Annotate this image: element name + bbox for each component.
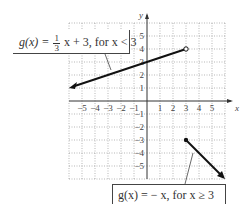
svg-text:3: 3 <box>140 57 145 67</box>
svg-text:2: 2 <box>140 70 145 80</box>
fraction-denominator: 3 <box>53 44 60 53</box>
svg-text:2: 2 <box>171 103 176 113</box>
svg-text:−5: −5 <box>134 161 144 171</box>
svg-text:−2: −2 <box>116 103 126 113</box>
svg-text:3: 3 <box>184 103 189 113</box>
svg-text:−3: −3 <box>103 103 113 113</box>
piece1-label: g(x) = 13 x + 3, for x < 3 <box>13 30 130 54</box>
svg-text:5: 5 <box>140 31 145 41</box>
svg-text:−4: −4 <box>90 103 100 113</box>
svg-text:−5: −5 <box>77 103 87 113</box>
svg-text:x: x <box>234 103 239 113</box>
svg-text:−4: −4 <box>134 148 144 158</box>
svg-text:4: 4 <box>140 44 145 54</box>
svg-text:y: y <box>138 10 143 20</box>
svg-text:5: 5 <box>210 103 215 113</box>
piece2-label: g(x) = − x, for x ≥ 3 <box>112 184 226 204</box>
svg-text:1: 1 <box>158 103 163 113</box>
fraction: 13 <box>53 34 60 53</box>
piece1-suffix: x + 3, for x < 3 <box>61 35 137 49</box>
svg-text:1: 1 <box>140 83 145 93</box>
piece2-text: g(x) = − x, for x ≥ 3 <box>118 188 214 202</box>
svg-text:−1: −1 <box>134 109 144 119</box>
piece1-prefix: g(x) = <box>19 35 52 49</box>
svg-text:−2: −2 <box>134 122 144 132</box>
svg-text:−3: −3 <box>134 135 144 145</box>
svg-text:4: 4 <box>197 103 202 113</box>
